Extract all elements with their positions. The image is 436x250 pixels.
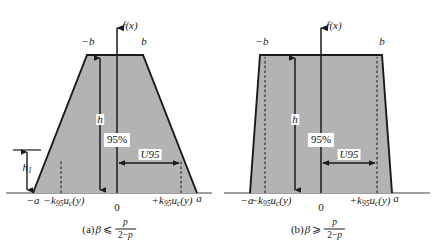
caption-b: (b) β ⩾ p 2−p [291,218,345,240]
top-label-left-a: −b [82,36,95,47]
top-label-left-b: −b [256,36,269,47]
tick-label-minus-k95uc-b: −k95uc(y) [251,195,292,208]
y-axis-label-b: f(x) [326,20,341,31]
coverage-label-b: 95% [308,133,334,147]
caption-numerator-a: p [120,218,131,229]
caption-tag-a: (a) [82,223,94,235]
caption-denominator-a: 2−p [115,229,136,240]
figure-root: f(x) −b b h h1 95% U95 −a −k95uc(y) [0,0,436,250]
caption-fraction-b: p 2−p [324,218,345,240]
panel-a: f(x) −b b h h1 95% U95 −a −k95uc(y) [0,0,218,250]
caption-variable-a: β [95,223,100,235]
tick-label-plus-k95uc-b: +k95uc(y) [350,195,391,208]
interval-label-b: U95 [338,149,361,160]
caption-tag-b: (b) [291,223,304,235]
caption-variable-b: β [305,223,310,235]
caption-numerator-b: p [329,218,340,229]
top-label-right-a: b [141,36,147,47]
panel-b: f(x) −b b h 95% U95 −a −k95uc(y) 0 [218,0,436,250]
caption-a: (a) β ⩽ p 2−p [82,218,136,240]
caption-relation-a: ⩽ [103,223,112,236]
trapezoid-fill-a [33,55,197,193]
height-label-a: h [96,114,104,125]
caption-denominator-b: 2−p [324,229,345,240]
tick-label-plus-k95uc-a: +k95uc(y) [152,195,193,208]
sub-height-label-a: h1 [22,162,31,175]
tick-label-origin-a: 0 [114,202,120,213]
tick-label-minus-a-a: −a [27,195,40,206]
caption-fraction-a: p 2−p [115,218,136,240]
tick-label-a-a: a [196,193,202,204]
top-label-right-b: b [379,36,385,47]
coverage-label-a: 95% [104,133,130,147]
panel-b-plot [218,0,436,250]
height-label-b: h [291,114,299,125]
y-axis-label-a: f(x) [122,20,137,31]
caption-relation-b: ⩾ [312,223,321,236]
interval-label-a: U95 [139,149,162,160]
tick-label-origin-b: 0 [318,202,324,213]
tick-label-a-b: a [393,193,399,204]
tick-label-minus-k95uc-a: −k95uc(y) [44,195,85,208]
panel-a-plot [0,0,218,250]
